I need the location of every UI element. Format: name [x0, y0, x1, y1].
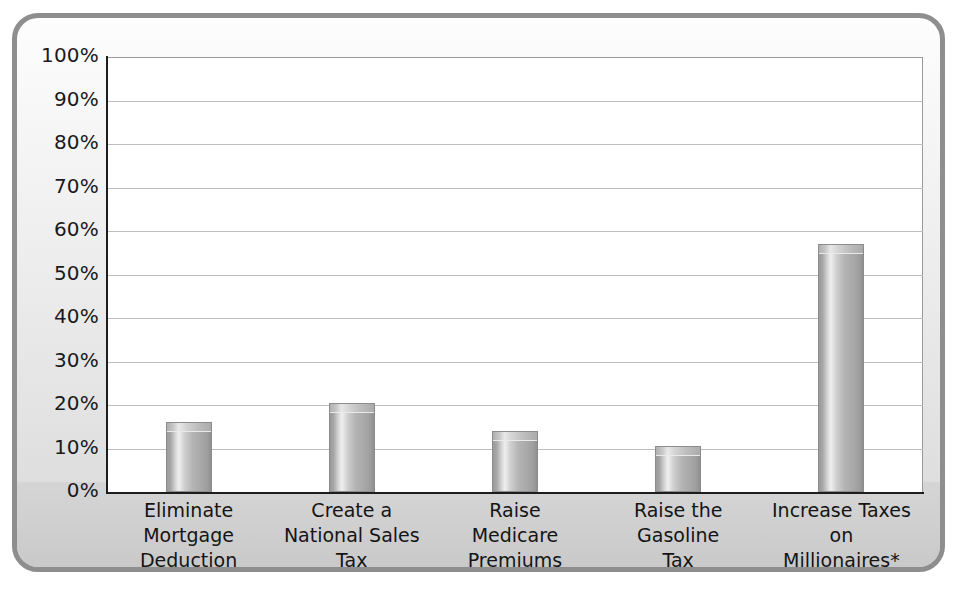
bar[interactable]	[329, 403, 375, 492]
y-tick-label-50: 50%	[17, 261, 107, 285]
x-category-label-line: Increase Taxes	[760, 498, 923, 523]
y-tick-label-10: 10%	[17, 435, 107, 459]
bar[interactable]	[492, 431, 538, 492]
y-axis-tick-labels: 0%10%20%30%40%50%60%70%80%90%100%	[17, 18, 107, 567]
x-category-label-line: Mortgage	[107, 523, 270, 548]
x-category-label-line: Tax	[270, 548, 433, 572]
x-category-label: RaiseMedicarePremiums	[433, 498, 596, 572]
x-category-label-line: Eliminate	[107, 498, 270, 523]
bar-slot	[597, 57, 760, 492]
x-axis-category-labels: EliminateMortgageDeductionCreate aNation…	[107, 498, 923, 572]
y-tick-label-20: 20%	[17, 391, 107, 415]
x-category-label-line: Deduction	[107, 548, 270, 572]
bar-slot	[107, 57, 270, 492]
x-category-label-line: Premiums	[433, 548, 596, 572]
x-axis-line	[106, 492, 924, 494]
x-category-label: Create aNational SalesTax	[270, 498, 433, 572]
bar-cap	[493, 432, 537, 441]
bar-cap	[167, 423, 211, 432]
y-tick-label-100: 100%	[17, 43, 107, 67]
x-category-label-line: on	[760, 523, 923, 548]
chart-page: 0%10%20%30%40%50%60%70%80%90%100% Elimin…	[0, 0, 972, 602]
x-category-label-line: National Sales	[270, 523, 433, 548]
x-category-label-line: Raise the	[597, 498, 760, 523]
bar-slot	[270, 57, 433, 492]
y-tick-label-90: 90%	[17, 87, 107, 111]
bar-cap	[819, 245, 863, 254]
y-tick-label-60: 60%	[17, 217, 107, 241]
x-category-label: EliminateMortgageDeduction	[107, 498, 270, 572]
x-category-label: Increase TaxesonMillionaires*	[760, 498, 923, 572]
x-category-label-line: Gasoline	[597, 523, 760, 548]
y-tick-label-0: 0%	[17, 478, 107, 502]
chart-frame: 0%10%20%30%40%50%60%70%80%90%100% Elimin…	[12, 13, 945, 572]
bar[interactable]	[166, 422, 212, 492]
x-category-label: Raise theGasolineTax	[597, 498, 760, 572]
x-category-label-line: Raise	[433, 498, 596, 523]
y-tick-label-40: 40%	[17, 304, 107, 328]
bar[interactable]	[818, 244, 864, 492]
bar-slot	[760, 57, 923, 492]
x-category-label-line: Tax	[597, 548, 760, 572]
bar-cap	[656, 447, 700, 456]
x-category-label-line: Medicare	[433, 523, 596, 548]
bar-cap	[330, 404, 374, 413]
y-tick-label-80: 80%	[17, 130, 107, 154]
x-category-label-line: Create a	[270, 498, 433, 523]
bar-slot	[433, 57, 596, 492]
plot-wrapper	[107, 57, 923, 492]
y-tick-label-70: 70%	[17, 174, 107, 198]
x-category-label-line: Millionaires*	[760, 548, 923, 572]
bar[interactable]	[655, 446, 701, 492]
y-tick-label-30: 30%	[17, 348, 107, 372]
